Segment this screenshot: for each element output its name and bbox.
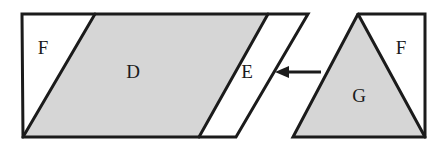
label-f-right: F [396,37,407,58]
right-shape-group: F G [293,14,425,137]
label-d: D [126,61,140,82]
left-pointing-arrow [275,66,321,78]
left-shape-group: F D E [22,14,308,137]
label-e: E [241,61,253,82]
figure-container: Area dissection diagram: parallelogram w… [0,0,440,154]
label-f-left: F [38,37,49,58]
dissection-diagram: Area dissection diagram: parallelogram w… [0,0,440,154]
label-g: G [352,85,366,106]
